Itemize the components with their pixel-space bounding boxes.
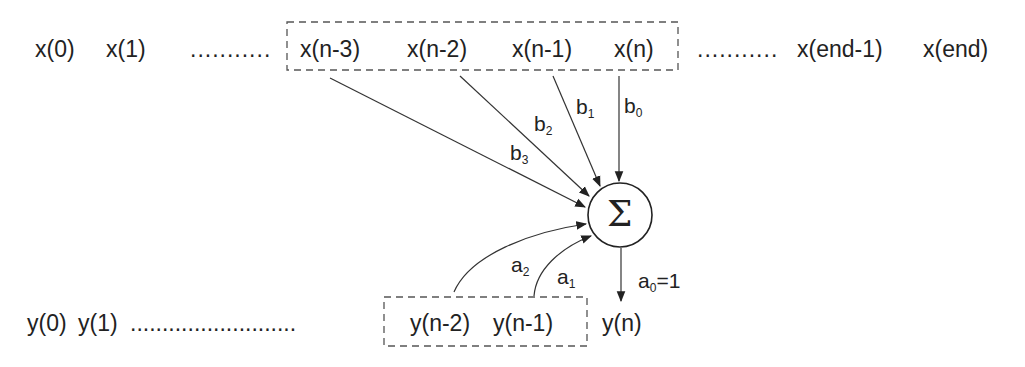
input-sample-n-2: x(n-2) bbox=[407, 38, 467, 61]
output-sample-n-1: y(n-1) bbox=[493, 312, 553, 335]
output-sample-n-2: y(n-2) bbox=[410, 312, 470, 335]
coef-b3: b3 bbox=[510, 142, 528, 166]
input-sample-end: x(end) bbox=[923, 38, 988, 61]
input-sample-n-1: x(n-1) bbox=[512, 38, 572, 61]
output-sample-0: y(0) bbox=[27, 312, 67, 335]
coef-a2: a2 bbox=[511, 254, 529, 278]
input-sample-0: x(0) bbox=[35, 38, 75, 61]
input-sample-n: x(n) bbox=[614, 38, 654, 61]
arrow-b3 bbox=[330, 78, 585, 207]
output-sample-1: y(1) bbox=[78, 312, 118, 335]
input-sample-1: x(1) bbox=[106, 38, 146, 61]
sigma-symbol: Σ bbox=[607, 196, 632, 232]
output-ellipsis: .......................... bbox=[130, 312, 296, 335]
output-sample-n: y(n) bbox=[602, 312, 642, 335]
coef-b2: b2 bbox=[534, 113, 552, 137]
input-ellipsis-right: ........... bbox=[697, 38, 778, 61]
coef-b1: b1 bbox=[576, 96, 594, 120]
coef-a0: a0=1 bbox=[638, 270, 680, 294]
input-sample-n-3: x(n-3) bbox=[300, 38, 360, 61]
arrow-b2 bbox=[460, 76, 589, 196]
input-ellipsis-left: ........... bbox=[190, 38, 271, 61]
input-sample-end-1: x(end-1) bbox=[797, 38, 883, 61]
coef-b0: b0 bbox=[624, 95, 642, 119]
coef-a1: a1 bbox=[557, 266, 575, 290]
